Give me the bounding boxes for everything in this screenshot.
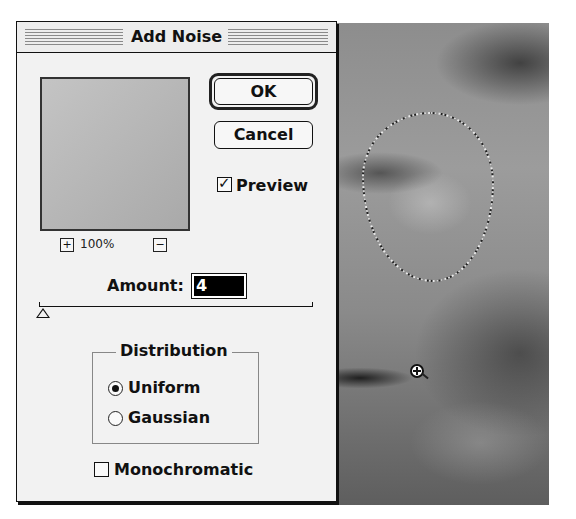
preview-zoom-controls: + 100% −	[60, 238, 170, 252]
cancel-button[interactable]: Cancel	[214, 121, 313, 149]
zoom-in-icon	[410, 364, 424, 378]
distribution-title: Distribution	[116, 341, 232, 360]
title-bar[interactable]: Add Noise	[17, 22, 336, 53]
distribution-group: Distribution Uniform Gaussian	[92, 352, 259, 444]
uniform-radio[interactable]	[108, 381, 123, 396]
preview-checkbox[interactable]	[217, 177, 232, 192]
uniform-label[interactable]: Uniform	[128, 378, 200, 397]
add-noise-dialog: Add Noise + 100% − OK Cancel Preview Amo…	[16, 21, 337, 502]
preview-label[interactable]: Preview	[236, 176, 308, 195]
amount-slider-track[interactable]	[39, 306, 313, 307]
slider-tick-right	[312, 302, 313, 307]
zoom-level: 100%	[80, 237, 114, 251]
slider-tick-left	[39, 302, 40, 307]
monochromatic-label[interactable]: Monochromatic	[114, 460, 253, 479]
zoom-in-button[interactable]: +	[60, 238, 74, 252]
amount-input[interactable]: 4	[191, 273, 247, 299]
amount-label: Amount:	[107, 276, 184, 295]
zoom-out-button[interactable]: −	[153, 238, 167, 252]
amount-value[interactable]: 4	[194, 276, 244, 296]
dialog-title: Add Noise	[17, 27, 336, 46]
amount-slider-thumb[interactable]	[36, 308, 50, 318]
gaussian-radio[interactable]	[108, 411, 123, 426]
filter-preview[interactable]	[40, 77, 190, 231]
monochromatic-checkbox[interactable]	[94, 462, 109, 477]
gaussian-label[interactable]: Gaussian	[128, 408, 210, 427]
ok-button[interactable]: OK	[214, 78, 313, 105]
